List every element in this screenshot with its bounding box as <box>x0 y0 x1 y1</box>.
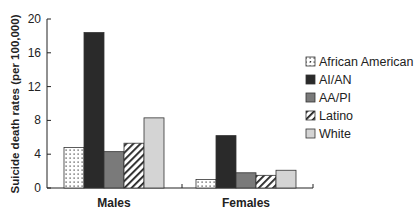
y-tick-label: 8 <box>34 113 41 127</box>
y-tick-label: 0 <box>34 181 41 195</box>
category-label-females: Females <box>222 196 270 210</box>
legend-swatch-icon <box>306 111 315 120</box>
legend-item: AA/PI <box>306 91 351 105</box>
bar-african-american-females <box>196 180 216 188</box>
legend-item: African American <box>306 55 414 69</box>
bar-white-females <box>276 170 296 188</box>
y-axis: 048121620 <box>28 12 51 195</box>
legend-label: AA/PI <box>319 91 351 105</box>
bar-latino-males <box>124 143 144 188</box>
y-tick-label: 20 <box>28 12 42 26</box>
bar-latino-females <box>256 175 276 188</box>
y-axis-title: Suicide death rates (per 100,000) <box>9 14 21 193</box>
legend-label: White <box>319 127 351 141</box>
legend-label: AI/AN <box>319 73 352 87</box>
y-tick-label: 16 <box>28 46 42 60</box>
bar-ai-an-males <box>84 33 104 188</box>
y-tick-label: 4 <box>34 147 41 161</box>
legend-label: Latino <box>319 109 353 123</box>
bar-group-females <box>196 136 296 188</box>
legend-label: African American <box>319 55 414 69</box>
bar-ai-an-females <box>216 136 236 188</box>
legend-swatch-icon <box>306 75 315 84</box>
bar-aa-pi-males <box>104 152 124 188</box>
legend: African AmericanAI/ANAA/PILatinoWhite <box>306 55 414 141</box>
bar-chart: 048121620 MalesFemales African AmericanA… <box>0 0 416 216</box>
bar-white-males <box>144 118 164 188</box>
legend-item: Latino <box>306 109 353 123</box>
bar-african-american-males <box>64 147 84 188</box>
legend-item: AI/AN <box>306 73 352 87</box>
category-label-males: Males <box>97 196 131 210</box>
y-tick-label: 12 <box>28 80 42 94</box>
legend-swatch-icon <box>306 93 315 102</box>
legend-swatch-icon <box>306 129 315 138</box>
bar-aa-pi-females <box>236 173 256 188</box>
legend-item: White <box>306 127 351 141</box>
bar-group-males <box>64 33 164 188</box>
bars: MalesFemales <box>64 33 296 210</box>
